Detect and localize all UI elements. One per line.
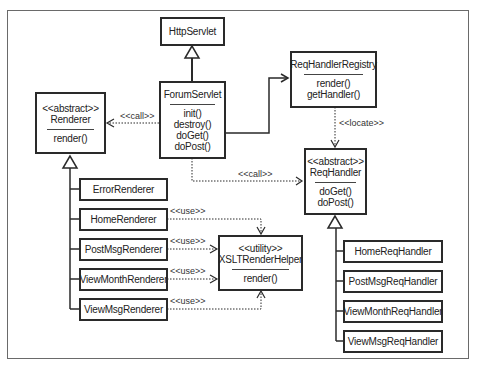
method: doPost(): [317, 197, 353, 208]
dependency-home-xslt: [167, 219, 261, 233]
class-forum-servlet[interactable]: ForumServlet init() destroy() doGet() do…: [159, 81, 226, 159]
label-use-home: <<use>>: [170, 206, 206, 216]
class-req-handler-registry[interactable]: ReqHandlerRegistry render() getHandler(): [290, 51, 377, 108]
label-use-postmsg: <<use>>: [170, 236, 206, 246]
class-viewmonth-req-handler[interactable]: ViewMonthReqHandler: [343, 300, 443, 323]
class-viewmsg-req-handler[interactable]: ViewMsgReqHandler: [343, 330, 443, 353]
class-name: HomeRenderer: [91, 214, 157, 225]
class-renderer[interactable]: <<abstract>> Renderer render(): [35, 92, 106, 154]
class-postmsg-renderer[interactable]: PostMsgRenderer: [79, 238, 168, 261]
generalization-arrowhead-icon: [185, 46, 199, 58]
label-use-viewmsg: <<use>>: [170, 296, 206, 306]
class-name: XSLTRenderHelper: [219, 254, 302, 265]
class-name: Renderer: [50, 114, 90, 125]
class-name: PostMsgReqHandler: [349, 276, 438, 287]
label-call-renderer: <<call>>: [120, 111, 155, 121]
class-req-handler[interactable]: <<abstract>> ReqHandler doGet() doPost(): [304, 148, 367, 215]
class-name: ViewMsgRenderer: [84, 304, 163, 315]
class-name: ForumServlet: [164, 89, 222, 100]
compartment-divider: [170, 104, 214, 105]
compartment-divider: [232, 269, 289, 270]
method: init(): [183, 108, 201, 119]
label-call-reqhandler: <<call>>: [238, 169, 273, 179]
class-name: ViewMsgReqHandler: [348, 336, 438, 347]
method: doGet(): [176, 130, 209, 141]
generalization-arrowhead-icon: [63, 156, 77, 168]
class-name: ReqHandler: [310, 167, 361, 178]
compartment-divider: [304, 74, 362, 75]
method: render(): [244, 273, 278, 284]
class-name: ViewMonthRenderer: [80, 274, 168, 285]
method: render(): [54, 133, 88, 144]
label-use-viewmonth: <<use>>: [170, 266, 206, 276]
label-locate: <<locate>>: [339, 118, 384, 128]
class-name: ViewMonthReqHandler: [344, 306, 443, 317]
class-error-renderer[interactable]: ErrorRenderer: [79, 178, 168, 201]
class-http-servlet[interactable]: HttpServlet: [160, 17, 225, 46]
class-name: ReqHandlerRegistry: [290, 59, 376, 70]
stereotype: <<utility>>: [239, 243, 283, 254]
class-postmsg-req-handler[interactable]: PostMsgReqHandler: [343, 270, 443, 293]
method: render(): [317, 78, 351, 89]
class-home-renderer[interactable]: HomeRenderer: [79, 208, 168, 231]
class-name: HomeReqHandler: [354, 246, 431, 257]
method: doGet(): [319, 186, 352, 197]
method: doPost(): [174, 141, 210, 152]
stereotype: <<abstract>>: [42, 103, 99, 114]
stereotype: <<abstract>>: [307, 156, 364, 167]
compartment-divider: [47, 129, 94, 130]
class-name: HttpServlet: [169, 26, 216, 37]
class-viewmsg-renderer[interactable]: ViewMsgRenderer: [79, 298, 168, 321]
method: getHandler(): [307, 89, 360, 100]
class-name: ErrorRenderer: [93, 184, 154, 195]
generalization-arrowhead-icon: [328, 216, 342, 228]
compartment-divider: [315, 182, 356, 183]
association-forum-registry: [225, 78, 288, 133]
class-viewmonth-renderer[interactable]: ViewMonthRenderer: [79, 268, 168, 291]
class-home-req-handler[interactable]: HomeReqHandler: [343, 240, 443, 263]
method: destroy(): [174, 119, 212, 130]
class-xslt-render-helper[interactable]: <<utility>> XSLTRenderHelper render(): [218, 235, 303, 291]
class-name: PostMsgRenderer: [85, 244, 163, 255]
